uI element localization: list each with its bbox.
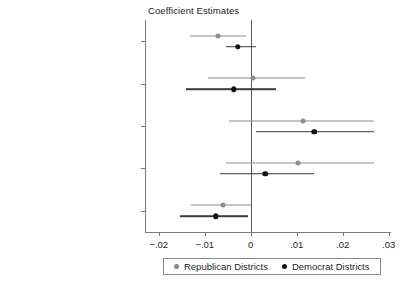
y-tick	[141, 84, 145, 85]
estimate-point	[235, 44, 241, 50]
legend-item-republican: Republican Districts	[174, 261, 267, 272]
x-tick-label: .02	[336, 239, 349, 250]
confidence-interval-line	[226, 46, 256, 48]
x-tick-label: −.02	[149, 239, 168, 250]
zero-reference-line	[251, 20, 252, 232]
x-tick	[343, 232, 344, 236]
estimate-point	[311, 129, 317, 135]
x-tick	[389, 232, 390, 236]
plot-area: −.02−.010.01.02.03 Percent Black BoardPe…	[145, 20, 391, 238]
coefficient-plot: Coefficient Estimates −.02−.010.01.02.03…	[0, 0, 402, 281]
legend-label-republican: Republican Districts	[184, 261, 268, 272]
circle-gray-icon	[174, 264, 179, 269]
legend: Republican Districts Democrat Districts	[163, 258, 381, 275]
estimate-point	[213, 214, 219, 220]
x-axis-line	[145, 232, 391, 233]
legend-item-democrat: Democrat Districts	[282, 261, 370, 272]
x-tick-label: .03	[382, 239, 395, 250]
x-tick-label: 0	[248, 239, 253, 250]
estimate-point	[231, 86, 237, 92]
x-tick	[297, 232, 298, 236]
confidence-interval-line	[208, 78, 305, 79]
x-tick	[205, 232, 206, 236]
x-tick-label: .01	[290, 239, 303, 250]
x-tick	[159, 232, 160, 236]
estimate-point	[216, 33, 221, 38]
chart-title: Coefficient Estimates	[148, 5, 239, 16]
estimate-point	[251, 76, 256, 81]
estimate-point	[263, 171, 269, 177]
y-axis-line	[145, 20, 146, 232]
y-tick	[141, 211, 145, 212]
estimate-point	[296, 160, 301, 165]
x-tick-label: −.01	[195, 239, 214, 250]
estimate-point	[301, 118, 306, 123]
estimate-point	[221, 203, 226, 208]
x-tick	[251, 232, 252, 236]
y-tick	[141, 126, 145, 127]
y-tick	[141, 41, 145, 42]
y-tick	[141, 168, 145, 169]
legend-label-democrat: Democrat Districts	[292, 261, 370, 272]
circle-black-icon	[282, 264, 287, 269]
